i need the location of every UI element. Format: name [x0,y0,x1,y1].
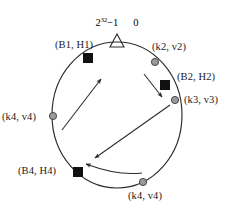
server-marker-b1 [83,53,93,63]
key-marker-k4-bottom [139,178,146,185]
key-marker-k4-left [49,112,56,119]
key-label-k4-bottom: (k4, v4) [128,191,162,202]
server-marker-b4 [73,167,83,177]
ring-origin-notch-icon [110,34,124,47]
arrow-k2-to-b2 [144,74,162,97]
arrow-k4-left-to-b1 [62,79,101,130]
key-marker-k2 [151,58,158,65]
key-marker-k3 [171,96,178,103]
server-label-b1: (B1, H1) [55,40,93,51]
max-hash-label: 232−1 [95,17,118,28]
hash-ring-circle [52,42,182,188]
server-marker-b2 [160,80,170,90]
key-label-k3: (k3, v3) [184,95,218,106]
key-label-k2: (k2, v2) [152,42,186,53]
key-label-k4-left: (k4, v4) [2,112,36,123]
arrow-k3-to-b4 [95,105,170,158]
ring-origin-labels: 232−1 0 [0,12,234,30]
server-label-b2: (B2, H2) [177,72,215,83]
zero-hash-label: 0 [133,17,138,28]
server-label-b4: (B4, H4) [18,166,56,177]
arrow-k4-bottom-to-b4 [86,164,142,174]
